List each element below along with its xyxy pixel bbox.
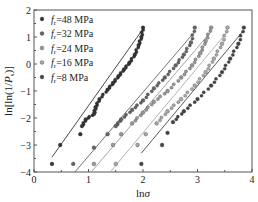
legend-item: fr=16 MPa (51, 57, 94, 70)
data-point (101, 93, 104, 96)
data-point (214, 77, 217, 80)
data-point (222, 38, 225, 41)
y-tick-label: 0 (26, 59, 31, 70)
legend-item: fr=8 MPa (51, 72, 89, 85)
data-point (236, 42, 240, 46)
data-point (177, 79, 180, 82)
data-point (183, 73, 186, 76)
legend: fr=48 MPafr=32 MPafr=24 MPafr=16 MPafr=8… (40, 14, 94, 85)
data-point (172, 104, 175, 107)
data-point (152, 100, 156, 104)
data-point (209, 29, 212, 32)
data-point (146, 106, 149, 109)
data-point (225, 30, 228, 33)
y-tick-label: −4 (20, 167, 31, 178)
data-point (155, 122, 159, 126)
data-point (170, 107, 173, 110)
fit-line (141, 30, 243, 153)
data-point (211, 60, 214, 63)
data-point (239, 34, 242, 37)
data-point (152, 86, 156, 90)
data-point (232, 50, 235, 53)
data-point (189, 41, 193, 45)
legend-item: fr=48 MPa (51, 14, 94, 27)
y-tick-label: −2 (20, 113, 31, 124)
data-point (158, 119, 161, 122)
data-point (191, 37, 194, 40)
data-point (177, 101, 180, 104)
data-point (156, 98, 159, 101)
data-point (193, 101, 196, 104)
data-point (176, 115, 179, 118)
data-point (186, 107, 189, 110)
data-point (166, 131, 170, 135)
data-point (146, 93, 149, 96)
data-point (209, 26, 213, 30)
data-point (166, 89, 170, 93)
data-point (141, 111, 145, 115)
data-point (213, 81, 216, 84)
data-point (163, 92, 166, 95)
data-point (172, 67, 175, 70)
data-point (163, 76, 167, 80)
legend-marker (40, 46, 44, 50)
data-point (188, 104, 191, 107)
data-point (164, 113, 167, 116)
data-point (201, 46, 204, 49)
data-point (207, 67, 210, 70)
data-point (182, 109, 186, 113)
data-point (119, 132, 123, 136)
x-tick-label: 0 (32, 174, 37, 185)
data-point (178, 58, 181, 61)
data-point (172, 83, 175, 86)
data-point (141, 26, 145, 30)
y-tick-label: 1 (26, 32, 31, 43)
legend-marker (40, 17, 44, 21)
data-point (223, 34, 226, 37)
data-point (174, 63, 178, 67)
y-axis-label: ln[ln(1/Ps)] (2, 66, 16, 116)
data-point (215, 53, 218, 56)
data-point (92, 146, 96, 150)
data-point (50, 162, 54, 166)
data-point (193, 61, 196, 64)
data-point (114, 162, 118, 166)
data-point (167, 73, 170, 76)
x-tick-label: 4 (250, 174, 255, 185)
data-point (185, 47, 188, 50)
data-point (190, 87, 193, 90)
data-point (124, 113, 127, 116)
data-point (157, 81, 160, 84)
data-point (179, 76, 183, 80)
data-point (88, 115, 91, 118)
data-point (168, 70, 171, 73)
data-point (139, 162, 143, 166)
data-point (228, 57, 232, 61)
data-point (135, 104, 138, 107)
data-point (227, 60, 230, 63)
data-point (106, 132, 110, 136)
data-point (159, 95, 162, 98)
data-point (193, 26, 197, 30)
data-point (224, 64, 227, 67)
data-point (111, 143, 115, 147)
y-tick-label: 2 (26, 5, 31, 16)
data-point (202, 91, 205, 94)
weibull-chart: 01234210−1−2−3−4 fr=48 MPafr=32 MPafr=24… (0, 0, 258, 202)
legend-marker (40, 32, 44, 36)
data-point (198, 51, 202, 55)
data-point (218, 74, 221, 77)
data-point (135, 116, 138, 119)
data-point (170, 86, 173, 89)
data-point (198, 77, 201, 80)
data-point (235, 46, 238, 49)
data-point (202, 74, 205, 77)
data-point (194, 58, 197, 61)
data-point (184, 94, 187, 97)
data-point (145, 96, 148, 99)
data-point (171, 120, 175, 124)
legend-marker (40, 61, 44, 65)
data-point (185, 50, 188, 53)
x-axis-label: lnσ (136, 187, 151, 199)
y-tick-label: −3 (20, 140, 31, 151)
